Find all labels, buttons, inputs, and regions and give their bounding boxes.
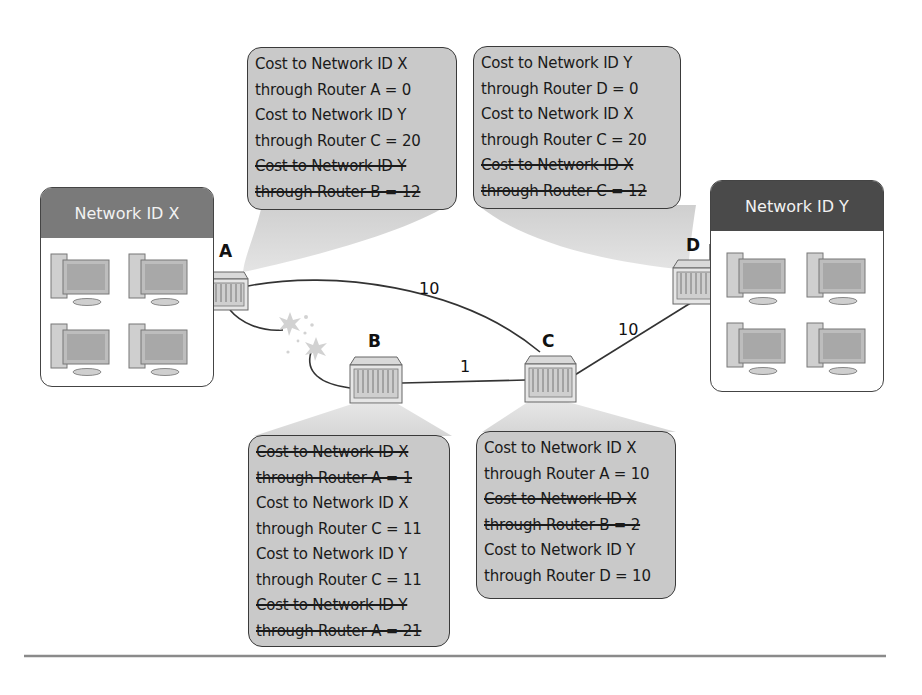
routing-table-router-c: Cost to Network ID X through Router A = … bbox=[476, 431, 676, 599]
table-row-struck: through Router A = 1 bbox=[256, 466, 443, 492]
computer-icon bbox=[807, 323, 865, 375]
table-row: Cost to Network ID Y bbox=[256, 542, 443, 568]
table-row: Cost to Network ID Y bbox=[255, 103, 450, 129]
table-row-struck: through Router A = 21 bbox=[256, 619, 443, 645]
table-row-struck: Cost to Network ID Y bbox=[256, 593, 443, 619]
link-c-d-cost: 10 bbox=[618, 320, 638, 339]
network-x-box: Network ID X bbox=[40, 187, 214, 387]
table-row-struck: Cost to Network ID Y bbox=[255, 154, 450, 180]
table-row: through Router C = 11 bbox=[256, 517, 443, 543]
link-a-c-cost: 10 bbox=[419, 279, 439, 298]
table-row: Cost to Network ID Y bbox=[484, 538, 669, 564]
network-y-title: Network ID Y bbox=[711, 181, 883, 231]
computer-icon bbox=[129, 324, 187, 376]
computer-icon bbox=[727, 253, 785, 305]
link-b-c bbox=[402, 380, 526, 383]
table-row-struck: Cost to Network ID X bbox=[481, 153, 674, 179]
spark-icon bbox=[279, 312, 327, 361]
broken-link-a-half bbox=[230, 310, 283, 330]
router-a-label: A bbox=[219, 241, 232, 261]
router-d-label: D bbox=[686, 235, 700, 255]
router-b-icon bbox=[350, 357, 402, 403]
computer-icon bbox=[727, 323, 785, 375]
callout-tail-a bbox=[243, 205, 448, 272]
table-row: Cost to Network ID X bbox=[481, 102, 674, 128]
network-x-title: Network ID X bbox=[41, 188, 213, 238]
table-row-struck: Cost to Network ID X bbox=[256, 440, 443, 466]
table-row-struck: through Router C = 12 bbox=[481, 179, 674, 205]
table-row: through Router D = 10 bbox=[484, 564, 669, 590]
router-c-icon bbox=[525, 356, 576, 402]
table-row-struck: Cost to Network ID X bbox=[484, 487, 669, 513]
routing-table-router-a: Cost to Network ID X through Router A = … bbox=[247, 47, 457, 210]
network-y-box: Network ID Y bbox=[710, 180, 884, 392]
computer-icon bbox=[51, 254, 109, 306]
table-row: through Router C = 11 bbox=[256, 568, 443, 594]
network-diagram: Network ID X bbox=[0, 0, 922, 695]
table-row: through Router A = 0 bbox=[255, 78, 450, 104]
routing-table-router-b: Cost to Network ID X through Router A = … bbox=[248, 435, 450, 647]
table-row: Cost to Network ID Y bbox=[481, 51, 674, 77]
table-row: through Router C = 20 bbox=[255, 129, 450, 155]
table-row-struck: through Router B = 12 bbox=[255, 180, 450, 206]
table-row-struck: through Router B = 2 bbox=[484, 513, 669, 539]
network-y-computers bbox=[711, 231, 884, 392]
computer-icon bbox=[129, 254, 187, 306]
table-row: Cost to Network ID X bbox=[255, 52, 450, 78]
router-b-label: B bbox=[368, 331, 381, 351]
routing-table-router-d: Cost to Network ID Y through Router D = … bbox=[473, 46, 681, 209]
link-a-c bbox=[248, 280, 540, 352]
network-x-computers bbox=[41, 238, 214, 387]
callout-tail-d bbox=[478, 205, 696, 270]
callout-tail-c bbox=[482, 402, 676, 432]
callout-tail-b bbox=[254, 404, 452, 436]
computer-icon bbox=[51, 324, 109, 376]
table-row: Cost to Network ID X bbox=[256, 491, 443, 517]
table-row: through Router A = 10 bbox=[484, 462, 669, 488]
table-row: through Router C = 20 bbox=[481, 128, 674, 154]
router-c-label: C bbox=[542, 331, 554, 351]
link-b-c-cost: 1 bbox=[460, 357, 470, 376]
computer-icon bbox=[807, 253, 865, 305]
table-row: Cost to Network ID X bbox=[484, 436, 669, 462]
table-row: through Router D = 0 bbox=[481, 77, 674, 103]
